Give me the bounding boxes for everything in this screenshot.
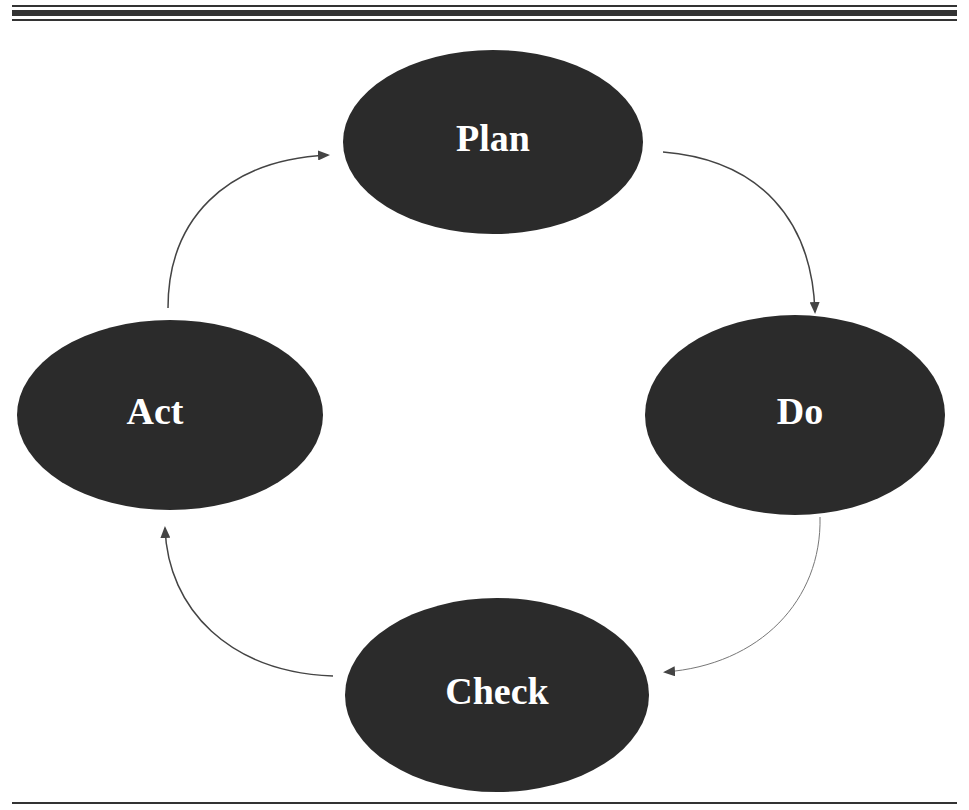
- arrow-do-to-check: [665, 517, 820, 672]
- node-check-label: Check: [445, 670, 549, 712]
- bottom-rule: [12, 802, 957, 804]
- node-act-label: Act: [127, 390, 184, 432]
- arrow-act-to-plan: [168, 155, 328, 308]
- pdca-diagram: Plan Do Check Act: [0, 0, 969, 810]
- node-do-label: Do: [777, 390, 823, 432]
- node-do: Do: [645, 315, 945, 515]
- arrow-plan-to-do: [663, 152, 815, 312]
- arrow-check-to-act: [165, 528, 333, 676]
- node-check: Check: [345, 598, 649, 792]
- node-act: Act: [17, 320, 323, 510]
- node-plan: Plan: [343, 50, 643, 234]
- node-plan-label: Plan: [456, 117, 530, 159]
